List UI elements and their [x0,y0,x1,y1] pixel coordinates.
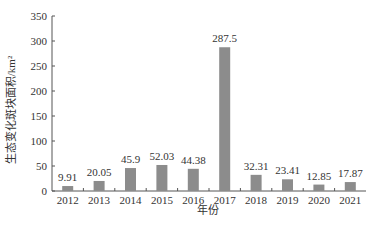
value-label: 52.03 [150,150,175,162]
bar-2019 [282,179,293,191]
value-label: 17.87 [338,167,363,179]
value-label: 20.05 [87,166,112,178]
y-tick-label: 150 [31,110,48,122]
x-tick-label: 2014 [120,194,143,206]
bar-2018 [251,175,262,191]
value-label: 23.41 [275,164,300,176]
x-tick-label: 2020 [308,194,331,206]
y-tick-label: 300 [31,35,48,47]
x-tick-label: 2015 [151,194,174,206]
value-label: 287.5 [212,32,237,44]
bars: 9.9120.0545.952.0344.38287.532.3123.4112… [58,32,363,191]
bar-2013 [94,181,105,191]
value-label: 45.9 [121,153,141,165]
bar-2015 [156,165,167,191]
bar-2014 [125,168,136,191]
value-label: 44.38 [181,154,206,166]
x-axis-title: 年份 [197,203,219,216]
y-tick-label: 250 [31,60,48,72]
x-tick-label: 2013 [88,194,111,206]
x-tick-label: 2019 [277,194,300,206]
x-tick-label: 2012 [57,194,79,206]
value-label: 32.31 [244,160,269,172]
y-tick-label: 350 [31,10,48,22]
bar-2020 [313,185,324,191]
bar-2012 [62,186,73,191]
bar-2017 [219,47,230,191]
x-tick-label: 2018 [245,194,268,206]
y-axis-title: 生态变化斑块面积/km² [4,55,17,164]
y-tick-label: 100 [31,135,48,147]
bar-2021 [345,182,356,191]
y-axis: 050100150200250300350 [31,10,56,197]
x-tick-label: 2021 [339,194,361,206]
y-tick-label: 200 [31,85,48,97]
y-tick-label: 50 [36,160,48,172]
bar-chart: 050100150200250300350 201220132014201520… [0,0,376,225]
bar-2016 [188,169,199,191]
value-label: 12.85 [307,170,332,182]
value-label: 9.91 [58,171,77,183]
y-tick-label: 0 [42,185,48,197]
